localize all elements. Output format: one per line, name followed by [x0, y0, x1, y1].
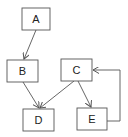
edge-c-to-d — [40, 81, 74, 108]
node-b[interactable]: B — [7, 60, 38, 82]
edge-b-to-d — [23, 82, 39, 108]
node-a-label: A — [32, 13, 40, 25]
node-d[interactable]: D — [23, 109, 54, 131]
node-e-label: E — [88, 113, 95, 125]
node-c-label: C — [73, 64, 81, 76]
node-e[interactable]: E — [77, 108, 107, 130]
node-d-label: D — [35, 114, 43, 126]
edge-c-to-e — [78, 81, 91, 107]
node-b-label: B — [19, 65, 26, 77]
node-c[interactable]: C — [61, 59, 92, 81]
diagram-canvas: A B C D E — [0, 0, 128, 137]
node-a[interactable]: A — [22, 8, 50, 30]
edge-a-to-b — [24, 30, 36, 59]
